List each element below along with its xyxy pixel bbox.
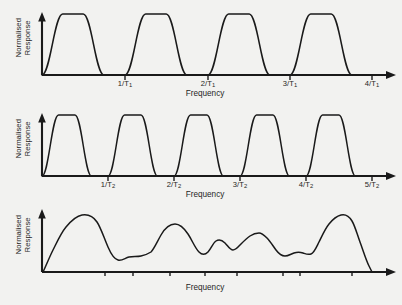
panel-1-x-axis-arrow-icon (386, 71, 396, 79)
panel-1-tick-label-2: 2/T1 (201, 80, 216, 88)
panel-2-x-axis-title: Frequency (186, 191, 225, 199)
panel-1-y-axis-title: Normalised Response (14, 18, 32, 57)
panel-3-y-axis-title: Normalised Response (14, 215, 32, 254)
panel-2-tick-label-5: 5/T2 (365, 181, 380, 189)
panel-2-tick-label-2: 2/T2 (167, 181, 182, 189)
panel-3-x-axis-title: Frequency (186, 284, 225, 292)
chart-panel-1: Normalised Response 1/T1 2/T1 3/T1 4/T1 … (0, 0, 402, 100)
figure-container: Normalised Response 1/T1 2/T1 3/T1 4/T1 … (0, 0, 402, 305)
panel-1-tick-label-4: 4/T1 (365, 80, 380, 88)
panel-1-tick-label-3: 3/T1 (283, 80, 298, 88)
panel-1-x-axis-title: Frequency (186, 90, 225, 98)
panel-2-y-axis-arrow-icon (38, 113, 46, 123)
panel-2-plot (0, 100, 402, 200)
panel-1-y-axis-arrow-icon (38, 12, 46, 22)
panel-3-x-axis-arrow-icon (386, 268, 396, 276)
chart-panel-2: Normalised Response 1/T2 2/T2 3/T2 4/T2 … (0, 100, 402, 200)
panel-1-curve (42, 14, 372, 75)
panel-1-tick-label-1: 1/T1 (118, 80, 133, 88)
panel-2-curve (42, 115, 372, 176)
panel-2-tick-label-4: 4/T2 (299, 181, 314, 189)
panel-3-curve (43, 215, 372, 272)
panel-2-tick-label-3: 3/T2 (233, 181, 248, 189)
panel-2-y-axis-title: Normalised Response (14, 119, 32, 158)
panel-2-x-axis-arrow-icon (386, 172, 396, 180)
chart-panel-3: Normalised Response Frequency (0, 200, 402, 300)
panel-3-y-axis-arrow-icon (38, 209, 46, 219)
panel-2-tick-label-1: 1/T2 (101, 181, 116, 189)
